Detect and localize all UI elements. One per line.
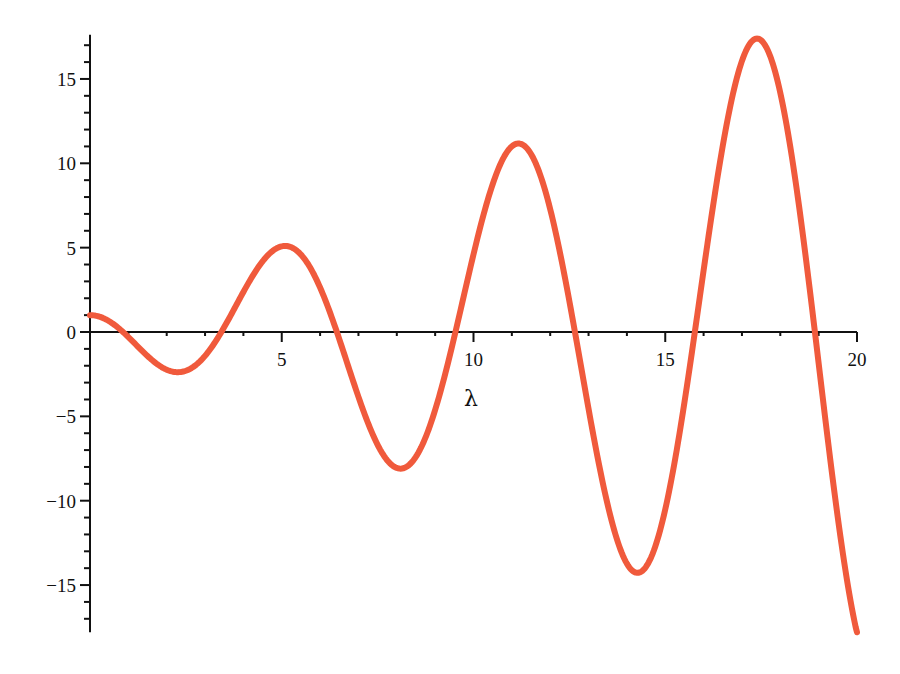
x-tick-label: 5 [277,349,287,370]
y-tick-label: −15 [46,575,76,596]
x-tick-label: 20 [848,349,867,370]
line-chart: −15−10−50510155101520 λ [0,0,900,674]
y-tick-label: 15 [57,69,76,90]
x-axis-label: λ [464,386,478,411]
x-tick-label: 15 [656,349,675,370]
y-tick-label: 5 [67,238,77,259]
y-tick-label: −5 [56,406,76,427]
y-tick-label: 10 [57,153,76,174]
y-tick-label: 0 [67,322,77,343]
y-tick-label: −10 [46,491,76,512]
x-tick-label: 10 [464,349,483,370]
